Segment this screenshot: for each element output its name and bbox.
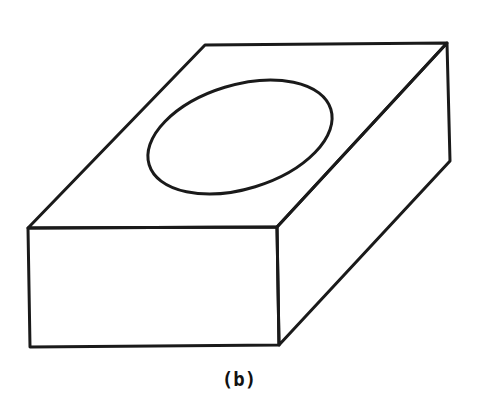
top-face [28,43,447,228]
top-ellipse [134,59,346,214]
block-drawing [0,0,478,413]
figure-canvas: (b) [0,0,478,413]
right-face [277,43,450,345]
front-face [28,227,279,347]
figure-label: (b) [0,368,478,390]
